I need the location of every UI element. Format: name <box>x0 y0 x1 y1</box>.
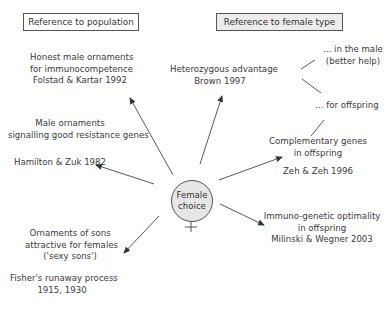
node-text: ... in the male <box>318 44 388 56</box>
node-text: Immuno-genetic optimality <box>262 211 382 223</box>
node-complementary-genes: Complementary genes in offspring <box>268 136 368 159</box>
node-immuno-genetic: Immuno-genetic optimality in offspring M… <box>262 211 382 246</box>
arrow-to-immuno-genetic <box>220 204 264 225</box>
node-reference: Brown 1997 <box>170 76 270 88</box>
node-reference: Folstad & Kartar 1992 <box>30 75 130 87</box>
node-text: in offspring <box>262 223 382 235</box>
node-for-offspring: ... for offspring <box>312 100 382 112</box>
node-reference: Fisher's runaway process <box>10 273 114 285</box>
node-in-the-male: ... in the male (better help) <box>318 44 388 67</box>
node-text: in offspring <box>268 148 368 160</box>
line-to-in-the-male <box>301 60 315 69</box>
node-reference: Milinski & Wegner 2003 <box>262 234 382 246</box>
node-text: Honest male ornaments <box>30 52 130 64</box>
node-text: Ornaments of sons <box>25 228 115 240</box>
line-offspring-to-complementary <box>311 120 324 136</box>
node-text: ('sexy sons') <box>25 251 115 263</box>
line-to-for-offspring <box>302 79 321 93</box>
center-label-line2: choice <box>178 201 206 212</box>
arrow-to-sexy-sons <box>124 216 159 253</box>
node-text: for immunocompetence <box>30 64 130 76</box>
node-sexy-sons: Ornaments of sons attractive for females… <box>25 228 115 263</box>
node-reference: 1915, 1930 <box>10 285 114 297</box>
node-text: (better help) <box>318 56 388 68</box>
node-text: Male ornaments <box>8 118 132 130</box>
node-heterozygous-advantage: Heterozygous advantage Brown 1997 <box>170 64 270 87</box>
node-reference-fisher: Fisher's runaway process 1915, 1930 <box>10 273 114 296</box>
node-text: Complementary genes <box>268 136 368 148</box>
node-honest-ornaments: Honest male ornaments for immunocompeten… <box>30 52 130 87</box>
node-reference-hamilton-zuk: Hamilton & Zuk 1982 <box>14 157 106 169</box>
female-choice-node: Female choice <box>171 180 213 222</box>
node-text: ... for offspring <box>312 100 382 112</box>
node-male-ornaments: Male ornaments signalling good resistanc… <box>8 118 132 141</box>
node-text: signalling good resistance genes <box>8 130 132 142</box>
node-text: Heterozygous advantage <box>170 64 270 76</box>
node-text: attractive for females <box>25 240 115 252</box>
center-label-line1: Female <box>176 190 207 201</box>
node-reference-zeh: Zeh & Zeh 1996 <box>268 166 368 178</box>
arrow-to-heterozygous-advantage <box>200 96 222 164</box>
